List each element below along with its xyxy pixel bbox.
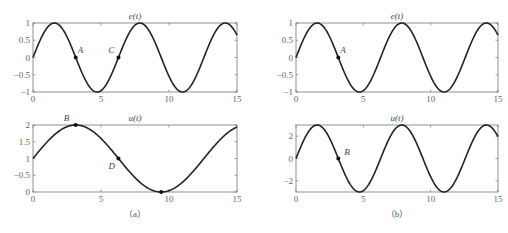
y-tick-label: 2	[26, 120, 31, 130]
y-tick-label: 0.5	[282, 35, 294, 45]
series-line-a-bottom	[33, 125, 237, 192]
x-tick-label: 0	[294, 94, 299, 104]
y-tick-label: 0	[289, 154, 294, 164]
y-tick-label: 0.5	[19, 35, 31, 45]
marker-point-B	[74, 123, 78, 127]
x-tick-label: 10	[426, 194, 436, 204]
series-line-a-top	[33, 23, 237, 92]
x-tick-label: 15	[233, 194, 243, 204]
series-line-b-bottom	[296, 125, 498, 192]
x-tick-label: 15	[494, 194, 504, 204]
point-label-B: B	[64, 113, 70, 123]
x-tick-label: 5	[361, 194, 366, 204]
x-tick-label: 15	[233, 94, 243, 104]
axes-title-a-bottom: u(t)	[129, 113, 142, 123]
x-tick-label: 0	[31, 94, 36, 104]
point-label-D: D	[107, 161, 115, 171]
marker-point-A	[74, 56, 78, 60]
y-tick-label: 1	[289, 18, 294, 28]
y-tick-label: −1	[283, 87, 293, 97]
x-tick-label: 0	[31, 194, 36, 204]
y-tick-label: 1	[26, 18, 31, 28]
y-tick-label: −0.5	[14, 70, 31, 80]
series-line-b-top	[296, 23, 498, 92]
x-tick-label: 10	[426, 94, 436, 104]
axes-frame-b-bottom	[296, 125, 498, 192]
x-tick-label: 5	[99, 94, 104, 104]
point-label-A: A	[339, 45, 346, 55]
x-tick-label: 10	[165, 94, 175, 104]
point-label-A: A	[77, 45, 84, 55]
x-tick-label: 5	[99, 194, 104, 204]
y-tick-label: 2	[289, 131, 294, 141]
y-tick-label: −2	[283, 176, 293, 186]
axes-title-b-top: e(t)	[391, 11, 404, 21]
figure: e(t)05101510.50−0.5−1ACu(t)05101521.51−0…	[0, 0, 508, 233]
y-tick-label: 0	[26, 187, 31, 197]
x-tick-label: 10	[165, 194, 175, 204]
axes-title-b-bottom: u(t)	[391, 113, 404, 123]
marker-point-C	[116, 56, 120, 60]
y-tick-label: 0	[26, 53, 31, 63]
axes-frame-a-bottom	[33, 125, 237, 192]
point-label-B: B	[344, 147, 350, 157]
y-tick-label: −0.5	[277, 70, 294, 80]
axes-frame-a-top	[33, 23, 237, 92]
marker-point-A	[336, 56, 340, 60]
x-tick-label: 0	[294, 194, 299, 204]
axes-frame-b-top	[296, 23, 498, 92]
x-tick-label: 15	[494, 94, 504, 104]
y-tick-label: −0.5	[14, 170, 31, 180]
marker-point-B	[336, 157, 340, 161]
y-tick-label: 1.5	[19, 137, 31, 147]
marker-point-D	[116, 157, 120, 161]
marker-point	[159, 190, 163, 194]
caption-a: （a）	[124, 209, 146, 219]
point-label-C: C	[108, 45, 115, 55]
y-tick-label: 1	[26, 154, 31, 164]
x-tick-label: 5	[361, 94, 366, 104]
y-tick-label: −1	[20, 87, 30, 97]
caption-b: （b）	[386, 209, 409, 219]
axes-title-a-top: e(t)	[129, 11, 142, 21]
y-tick-label: 0	[289, 53, 294, 63]
